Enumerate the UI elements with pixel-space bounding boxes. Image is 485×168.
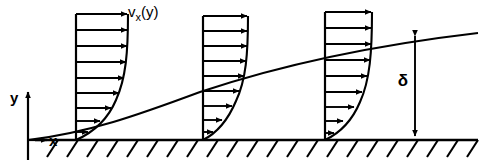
velocity-profile-3 <box>325 12 372 140</box>
boundary-layer-figure: y x <box>0 0 485 168</box>
boundary-layer-edge-curve <box>28 33 478 140</box>
profile-2-envelope <box>203 16 248 140</box>
velocity-profile-label: vx(y) <box>128 3 159 23</box>
profile-3-arrows <box>325 12 371 133</box>
y-axis-label: y <box>10 89 19 106</box>
velocity-label-text: vx(y) <box>128 3 159 23</box>
ground-line-group <box>35 140 478 157</box>
diagram-canvas: y x <box>0 0 485 168</box>
ground-hatching <box>47 140 478 157</box>
delta-label: δ <box>398 71 408 90</box>
x-axis-label: x <box>49 132 58 149</box>
velocity-label-argument: (y) <box>141 3 159 20</box>
velocity-profile-1 <box>76 14 128 140</box>
profile-2-arrows <box>203 16 247 132</box>
profile-1-arrows <box>76 14 127 132</box>
velocity-profile-2 <box>203 16 248 140</box>
delta-measure: δ <box>398 36 415 136</box>
